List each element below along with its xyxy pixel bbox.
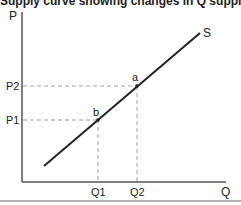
q1-label: Q1 [91, 186, 106, 198]
supply-curve [44, 33, 200, 166]
point-a [135, 84, 139, 88]
point-a-label: a [132, 71, 139, 83]
q2-label: Q2 [130, 186, 145, 198]
x-axis-label: Q [221, 185, 230, 199]
p1-label: P1 [6, 114, 19, 126]
point-b-label: b [93, 106, 99, 118]
curve-label: S [203, 26, 211, 40]
point-b [96, 118, 100, 122]
p2-label: P2 [6, 80, 19, 92]
y-axis-label: P [9, 9, 17, 23]
supply-chart: P Q S a b P2 P1 Q1 Q2 [0, 0, 241, 205]
